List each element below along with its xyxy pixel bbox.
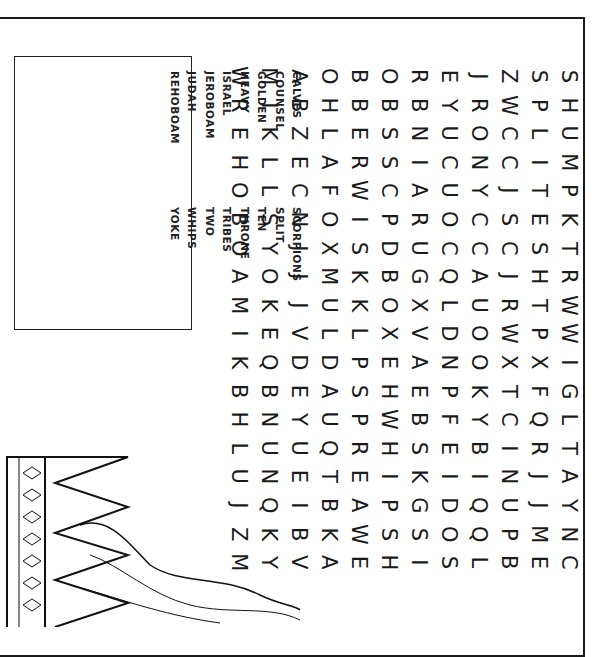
grid-letter[interactable]: R bbox=[345, 147, 374, 177]
grid-letter[interactable]: A bbox=[315, 547, 344, 577]
grid-letter[interactable]: B bbox=[495, 547, 524, 577]
grid-letter[interactable]: N bbox=[495, 462, 524, 492]
grid-letter[interactable]: D bbox=[315, 347, 344, 377]
grid-letter[interactable]: U bbox=[405, 233, 434, 263]
grid-letter[interactable]: G bbox=[555, 376, 584, 406]
grid-letter[interactable]: L bbox=[465, 547, 494, 577]
grid-letter[interactable]: I bbox=[465, 462, 494, 492]
grid-letter[interactable]: A bbox=[405, 347, 434, 377]
grid-letter[interactable]: O bbox=[225, 233, 254, 263]
grid-letter[interactable]: K bbox=[465, 376, 494, 406]
grid-letter[interactable]: Q bbox=[465, 519, 494, 549]
grid-letter[interactable]: H bbox=[225, 404, 254, 434]
grid-letter[interactable]: A bbox=[345, 490, 374, 520]
grid-letter[interactable]: C bbox=[435, 233, 464, 263]
grid-letter[interactable]: E bbox=[525, 204, 554, 234]
grid-letter[interactable]: S bbox=[405, 519, 434, 549]
grid-letter[interactable]: B bbox=[225, 376, 254, 406]
grid-letter[interactable]: G bbox=[405, 490, 434, 520]
grid-letter[interactable]: S bbox=[345, 233, 374, 263]
grid-letter[interactable]: Q bbox=[435, 261, 464, 291]
grid-letter[interactable]: K bbox=[315, 519, 344, 549]
grid-letter[interactable]: S bbox=[255, 204, 284, 234]
grid-letter[interactable]: B bbox=[375, 90, 404, 120]
grid-letter[interactable]: K bbox=[405, 462, 434, 492]
grid-letter[interactable]: P bbox=[435, 376, 464, 406]
grid-letter[interactable]: W bbox=[555, 319, 584, 349]
grid-letter[interactable]: A bbox=[285, 61, 314, 91]
grid-letter[interactable]: R bbox=[405, 61, 434, 91]
grid-letter[interactable]: J bbox=[285, 290, 314, 320]
grid-letter[interactable]: K bbox=[345, 261, 374, 291]
grid-letter[interactable]: L bbox=[345, 319, 374, 349]
grid-letter[interactable]: X bbox=[525, 347, 554, 377]
grid-letter[interactable]: Q bbox=[465, 490, 494, 520]
grid-letter[interactable]: S bbox=[405, 433, 434, 463]
grid-letter[interactable]: C bbox=[555, 547, 584, 577]
grid-letter[interactable]: B bbox=[345, 90, 374, 120]
grid-letter[interactable]: J bbox=[525, 462, 554, 492]
grid-letter[interactable]: L bbox=[525, 118, 554, 148]
grid-letter[interactable]: X bbox=[405, 290, 434, 320]
grid-letter[interactable]: K bbox=[345, 290, 374, 320]
grid-letter[interactable]: P bbox=[525, 90, 554, 120]
grid-letter[interactable]: U bbox=[465, 290, 494, 320]
grid-letter[interactable]: W bbox=[555, 290, 584, 320]
grid-letter[interactable]: N bbox=[555, 519, 584, 549]
grid-letter[interactable]: H bbox=[225, 147, 254, 177]
grid-letter[interactable]: U bbox=[435, 118, 464, 148]
grid-letter[interactable]: C bbox=[435, 147, 464, 177]
grid-letter[interactable]: T bbox=[525, 176, 554, 206]
grid-letter[interactable]: Q bbox=[315, 433, 344, 463]
grid-letter[interactable]: S bbox=[555, 61, 584, 91]
grid-letter[interactable]: E bbox=[435, 433, 464, 463]
grid-letter[interactable]: U bbox=[435, 176, 464, 206]
grid-letter[interactable]: K bbox=[555, 204, 584, 234]
grid-letter[interactable]: C bbox=[495, 404, 524, 434]
grid-letter[interactable]: D bbox=[435, 319, 464, 349]
grid-letter[interactable]: R bbox=[495, 290, 524, 320]
grid-letter[interactable]: F bbox=[315, 176, 344, 206]
grid-letter[interactable]: Y bbox=[555, 490, 584, 520]
grid-letter[interactable]: E bbox=[285, 147, 314, 177]
grid-letter[interactable]: Y bbox=[255, 233, 284, 263]
grid-letter[interactable]: Q bbox=[255, 347, 284, 377]
grid-letter[interactable]: W bbox=[495, 319, 524, 349]
grid-letter[interactable]: F bbox=[525, 376, 554, 406]
grid-letter[interactable]: A bbox=[555, 462, 584, 492]
grid-letter[interactable]: R bbox=[345, 433, 374, 463]
grid-letter[interactable]: R bbox=[405, 204, 434, 234]
grid-letter[interactable]: E bbox=[435, 61, 464, 91]
grid-letter[interactable]: O bbox=[315, 61, 344, 91]
grid-letter[interactable]: I bbox=[555, 347, 584, 377]
grid-letter[interactable]: H bbox=[525, 261, 554, 291]
grid-letter[interactable]: B bbox=[345, 61, 374, 91]
grid-letter[interactable]: W bbox=[345, 519, 374, 549]
grid-letter[interactable]: Y bbox=[465, 176, 494, 206]
grid-letter[interactable]: E bbox=[225, 118, 254, 148]
grid-letter[interactable]: P bbox=[375, 490, 404, 520]
grid-letter[interactable]: N bbox=[435, 347, 464, 377]
grid-letter[interactable]: W bbox=[345, 176, 374, 206]
grid-letter[interactable]: Z bbox=[285, 118, 314, 148]
grid-letter[interactable]: Z bbox=[495, 61, 524, 91]
grid-letter[interactable]: C bbox=[465, 233, 494, 263]
grid-letter[interactable]: F bbox=[435, 404, 464, 434]
grid-letter[interactable]: H bbox=[375, 433, 404, 463]
grid-letter[interactable]: B bbox=[315, 490, 344, 520]
grid-letter[interactable]: B bbox=[405, 404, 434, 434]
grid-letter[interactable]: L bbox=[435, 290, 464, 320]
grid-letter[interactable]: X bbox=[375, 319, 404, 349]
grid-letter[interactable]: O bbox=[435, 519, 464, 549]
grid-letter[interactable]: E bbox=[255, 319, 284, 349]
grid-letter[interactable]: O bbox=[465, 118, 494, 148]
grid-letter[interactable]: O bbox=[255, 261, 284, 291]
grid-letter[interactable]: J bbox=[285, 261, 314, 291]
grid-letter[interactable]: O bbox=[465, 347, 494, 377]
grid-letter[interactable]: M bbox=[525, 519, 554, 549]
grid-letter[interactable]: S bbox=[375, 118, 404, 148]
grid-letter[interactable]: P bbox=[375, 204, 404, 234]
grid-letter[interactable]: I bbox=[495, 433, 524, 463]
grid-letter[interactable]: E bbox=[285, 376, 314, 406]
grid-letter[interactable]: H bbox=[375, 376, 404, 406]
